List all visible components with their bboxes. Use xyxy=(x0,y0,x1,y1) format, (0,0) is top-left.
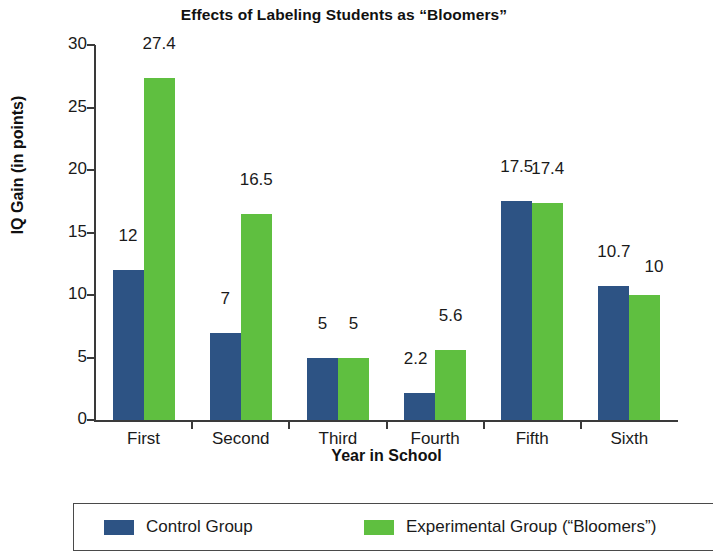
x-category-label-fifth: Fifth xyxy=(484,429,581,449)
bar-value-label: 10 xyxy=(626,257,682,277)
x-tick-mark xyxy=(386,420,388,429)
y-axis-title: IQ Gain (in points) xyxy=(9,55,27,275)
legend-item-experimental[interactable]: Experimental Group (“Bloomers”) xyxy=(364,517,656,537)
bar-control-sixth xyxy=(598,286,629,420)
x-tick-mark xyxy=(483,420,485,429)
y-tick-label: 5 xyxy=(47,347,87,367)
y-tick-label: 20 xyxy=(47,159,87,179)
bar-control-first xyxy=(113,270,144,420)
y-axis-title-holder: IQ Gain (in points) xyxy=(22,150,23,151)
control-swatch xyxy=(104,520,134,535)
x-tick-mark xyxy=(580,420,582,429)
bar-value-label: 27.4 xyxy=(131,34,187,54)
y-tick-mark xyxy=(87,107,95,109)
legend-label: Control Group xyxy=(146,517,253,537)
chart-title: Effects of Labeling Students as “Bloomer… xyxy=(0,6,688,24)
x-category-label-second: Second xyxy=(192,429,289,449)
y-tick-mark xyxy=(87,44,95,46)
x-category-label-sixth: Sixth xyxy=(581,429,678,449)
y-tick-mark xyxy=(87,357,95,359)
y-tick-mark xyxy=(87,294,95,296)
bar-experimental-third xyxy=(338,358,369,421)
bar-experimental-first xyxy=(144,78,175,421)
y-tick-mark xyxy=(87,419,95,421)
bar-value-label: 5 xyxy=(325,314,381,334)
chart-legend: Control GroupExperimental Group (“Bloome… xyxy=(73,503,713,551)
x-category-label-third: Third xyxy=(289,429,386,449)
y-tick-label: 0 xyxy=(47,409,87,429)
experimental-swatch xyxy=(364,520,394,535)
x-category-label-fourth: Fourth xyxy=(387,429,484,449)
bar-experimental-fourth xyxy=(435,350,466,420)
x-tick-mark xyxy=(288,420,290,429)
y-tick-mark xyxy=(87,232,95,234)
y-tick-mark xyxy=(87,169,95,171)
bar-control-third xyxy=(307,358,338,421)
x-axis-title: Year in School xyxy=(95,447,678,465)
y-tick-label: 15 xyxy=(47,222,87,242)
y-axis-tick-labels: 051015202530 xyxy=(43,45,87,421)
bar-control-fifth xyxy=(501,201,532,420)
legend-label: Experimental Group (“Bloomers”) xyxy=(406,517,656,537)
bar-value-label: 16.5 xyxy=(228,170,284,190)
bar-experimental-fifth xyxy=(532,203,563,421)
bar-control-fourth xyxy=(404,393,435,421)
plot-area: 1227.4First716.5Second55Third2.25.6Fourt… xyxy=(95,45,678,420)
legend-item-control[interactable]: Control Group xyxy=(104,517,253,537)
x-category-label-first: First xyxy=(95,429,192,449)
bar-experimental-sixth xyxy=(629,295,660,420)
bar-experimental-second xyxy=(241,214,272,420)
x-tick-mark xyxy=(191,420,193,429)
y-tick-label: 10 xyxy=(47,284,87,304)
y-tick-label: 25 xyxy=(47,97,87,117)
bar-value-label: 17.4 xyxy=(520,159,576,179)
bar-control-second xyxy=(210,333,241,421)
y-tick-label: 30 xyxy=(47,34,87,54)
bar-value-label: 5.6 xyxy=(423,306,479,326)
